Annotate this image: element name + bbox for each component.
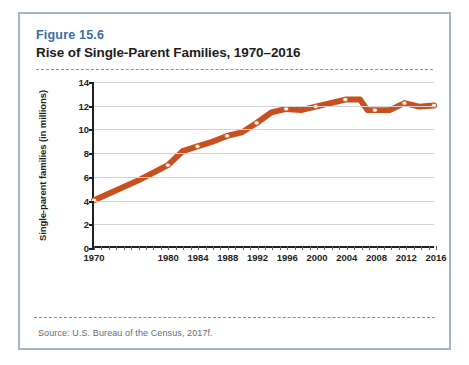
x-tick-mark (369, 246, 370, 250)
x-tick-mark (302, 246, 303, 250)
x-tick-mark (116, 246, 117, 250)
gridline (94, 153, 434, 154)
x-tick-mark (101, 246, 102, 250)
y-tick-mark (89, 224, 94, 226)
x-tick-mark (131, 246, 132, 250)
x-tick-mark (139, 246, 140, 250)
x-tick-mark (332, 246, 333, 250)
x-tick-mark (161, 246, 162, 250)
x-tick-mark (153, 246, 154, 250)
x-tick-mark (176, 246, 177, 250)
x-tick-mark (354, 246, 355, 250)
y-tick-label: 10 (78, 124, 89, 135)
y-tick-mark (89, 201, 94, 203)
data-point-marker (165, 163, 170, 167)
gridline (94, 129, 434, 130)
x-tick-mark (94, 246, 95, 250)
x-tick-mark (198, 246, 199, 250)
gridline (94, 201, 434, 202)
x-tick-mark (272, 246, 273, 250)
data-point-marker (254, 121, 259, 125)
gridline (94, 177, 434, 178)
x-tick-label: 2004 (336, 252, 357, 263)
x-tick-mark (287, 246, 288, 250)
x-tick-mark (235, 246, 236, 250)
y-tick-label: 14 (78, 77, 89, 88)
x-tick-label: 1988 (217, 252, 238, 263)
x-tick-mark (258, 246, 259, 250)
x-tick-mark (109, 246, 110, 250)
x-tick-mark (243, 246, 244, 250)
figure-inner: Figure 15.6 Rise of Single-Parent Famili… (20, 14, 449, 348)
x-tick-mark (362, 246, 363, 250)
y-tick-label: 2 (84, 219, 89, 230)
gridline (94, 106, 434, 107)
x-tick-mark (183, 246, 184, 250)
y-axis-title: Single-parent families (in millions) (36, 82, 50, 248)
x-tick-mark (377, 246, 378, 250)
figure-card: Figure 15.6 Rise of Single-Parent Famili… (18, 12, 451, 350)
y-tick-label: 6 (84, 171, 89, 182)
x-tick-mark (317, 246, 318, 250)
x-tick-mark (124, 246, 125, 250)
y-tick-mark (89, 106, 94, 108)
series-line (94, 100, 434, 201)
x-tick-mark (347, 246, 348, 250)
x-tick-mark (265, 246, 266, 250)
figure-title: Rise of Single-Parent Families, 1970–201… (36, 44, 435, 61)
x-tick-label: 2016 (425, 252, 446, 263)
x-tick-label: 2000 (306, 252, 327, 263)
x-tick-mark (250, 246, 251, 250)
y-tick-mark (89, 177, 94, 179)
x-tick-mark (429, 246, 430, 250)
source-divider (34, 317, 435, 318)
gridline (94, 82, 434, 83)
data-point-marker (402, 101, 407, 105)
x-tick-label: 1992 (247, 252, 268, 263)
y-tick-mark (89, 153, 94, 155)
x-tick-mark (295, 246, 296, 250)
plot-area: 0246810121419701980198419881992199620002… (92, 82, 434, 248)
x-tick-mark (310, 246, 311, 250)
x-tick-mark (391, 246, 392, 250)
title-divider (36, 69, 433, 70)
x-tick-mark (146, 246, 147, 250)
x-tick-mark (213, 246, 214, 250)
x-tick-mark (421, 246, 422, 250)
x-tick-label: 1996 (277, 252, 298, 263)
gridline (94, 224, 434, 225)
x-tick-mark (220, 246, 221, 250)
data-point-marker (343, 97, 348, 101)
x-tick-mark (399, 246, 400, 250)
data-point-marker (284, 107, 289, 111)
x-tick-label: 1970 (83, 252, 104, 263)
x-tick-mark (414, 246, 415, 250)
x-tick-mark (280, 246, 281, 250)
x-tick-mark (436, 246, 437, 250)
x-tick-label: 1984 (188, 252, 209, 263)
x-tick-mark (206, 246, 207, 250)
chart-container: Single-parent families (in millions) 024… (34, 72, 435, 272)
data-point-marker (372, 108, 377, 112)
x-tick-mark (191, 246, 192, 250)
y-axis-title-text: Single-parent families (in millions) (38, 89, 49, 240)
y-tick-label: 4 (84, 195, 89, 206)
x-tick-mark (384, 246, 385, 250)
y-tick-mark (89, 129, 94, 131)
x-tick-mark (228, 246, 229, 250)
data-point-marker (195, 144, 200, 148)
x-tick-label: 2012 (396, 252, 417, 263)
x-tick-mark (168, 246, 169, 250)
x-tick-label: 1980 (158, 252, 179, 263)
x-tick-mark (406, 246, 407, 250)
x-tick-label: 2008 (366, 252, 387, 263)
data-point-marker (224, 134, 229, 138)
x-tick-mark (339, 246, 340, 250)
y-tick-label: 8 (84, 148, 89, 159)
figure-label: Figure 15.6 (36, 28, 435, 43)
source-note: Source: U.S. Bureau of the Census, 2017f… (38, 328, 213, 338)
y-tick-label: 12 (78, 100, 89, 111)
x-tick-mark (324, 246, 325, 250)
y-tick-mark (89, 82, 94, 84)
